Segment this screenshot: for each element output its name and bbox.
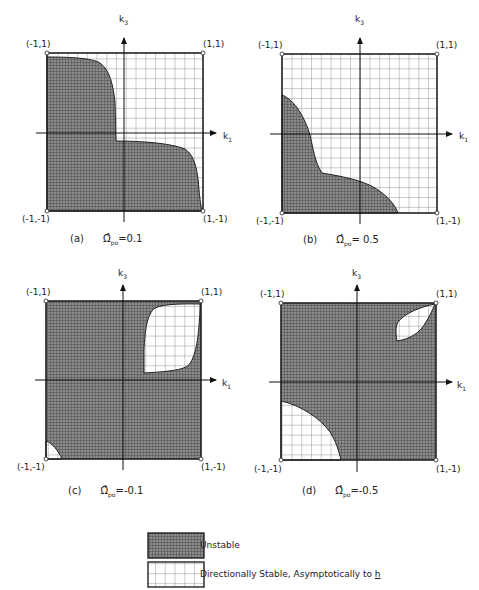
caption-b: (b) Ω̂po= 0.5 <box>303 234 379 247</box>
caption-d: (d) Ω̂po=-0.5 <box>302 485 378 498</box>
caption-c: (c) Ω̂po=-0.1 <box>68 485 143 498</box>
corner-label-tr-d: (1,1) <box>436 289 457 299</box>
panel-b <box>270 38 452 224</box>
x-axis-label-c: k1 <box>222 378 231 390</box>
corner-label-tl-b: (-1,1) <box>258 40 283 50</box>
panel-d <box>269 285 452 472</box>
x-axis-label-a: k1 <box>223 131 232 143</box>
corner-label-br-a: (1,-1) <box>203 214 228 224</box>
legend-swatch-unstable <box>148 533 204 558</box>
corner-label-tl-a: (-1,1) <box>26 39 51 49</box>
corner-label-br-d: (1,-1) <box>436 464 461 474</box>
corner-label-bl-b: (-1,-1) <box>256 216 284 226</box>
corner-label-tr-c: (1,1) <box>201 287 222 297</box>
x-axis-label-b: k1 <box>459 131 468 143</box>
corner-label-tr-a: (1,1) <box>203 39 224 49</box>
panel-a <box>36 38 216 222</box>
corner-label-br-c: (1,-1) <box>201 462 226 472</box>
y-axis-label-c: k3 <box>118 268 127 280</box>
corner-label-bl-c: (-1,-1) <box>17 462 45 472</box>
y-axis-label-b: k3 <box>355 14 364 26</box>
y-axis-label-d: k3 <box>352 268 361 280</box>
x-axis-label-d: k1 <box>457 380 466 392</box>
legend-swatch-stable <box>148 562 204 587</box>
y-axis-label-a: k3 <box>119 14 128 26</box>
corner-label-br-b: (1,-1) <box>436 216 461 226</box>
corner-label-tr-b: (1,1) <box>436 40 457 50</box>
stability-diagram-figure: k3 k1 k3 k1 k3 k1 k3 k1 (-1,1) (1,1) (-1… <box>0 0 479 590</box>
legend-label-unstable: Unstable <box>200 540 240 550</box>
panel-c <box>35 285 216 470</box>
corner-label-bl-d: (-1,-1) <box>254 464 282 474</box>
caption-a: (a) Ω̂po=0.1 <box>70 233 142 246</box>
corner-label-tl-c: (-1,1) <box>26 287 51 297</box>
corner-label-bl-a: (-1,-1) <box>22 214 50 224</box>
corner-label-tl-d: (-1,1) <box>260 289 285 299</box>
legend-label-stable: Directionally Stable, Asymptotically to … <box>200 569 381 579</box>
